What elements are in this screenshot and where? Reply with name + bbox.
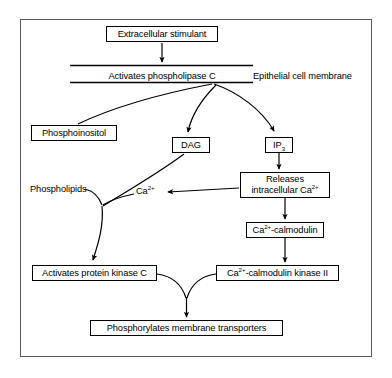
node-extracellular-stimulant: Extracellular stimulant [106, 26, 218, 42]
node-activates-protein-kinase-c: Activates protein kinase C [32, 265, 157, 281]
node-phosphorylates-membrane-transporters: Phosphorylates membrane transporters [90, 320, 283, 336]
node-label: Phosphorylates membrane transporters [107, 323, 267, 333]
edge-pkc-to-merge [157, 274, 186, 298]
releases-line-2: intracellular Ca [251, 185, 311, 195]
node-label: Extracellular stimulant [118, 29, 207, 39]
membrane-caption: Epithelial cell membrane [253, 71, 352, 81]
node-label: DAG [181, 140, 201, 150]
edge-releases-to-calcium [168, 188, 239, 192]
phospholipids-text: Phospholipids [30, 184, 87, 194]
edge-junction-to-pkc [93, 206, 102, 260]
node-releases-intracellular-calcium: Releasesintracellular Ca2+ [240, 172, 330, 198]
node-label: Phosphoinositol [42, 128, 106, 138]
node-label: Ca2+-calmodulin [253, 225, 318, 235]
node-label: Ca2+-calmodulin kinase II [227, 268, 328, 278]
node-calcium-calmodulin-kinase-ii: Ca2+-calmodulin kinase II [216, 265, 339, 281]
ip3-subscript: 3 [282, 145, 285, 152]
node-calcium-calmodulin: Ca2+-calmodulin [246, 222, 324, 238]
membrane-caption-text: Epithelial cell membrane [253, 71, 352, 81]
calmodulin-base: Ca [253, 225, 265, 235]
edge-phospholipids-leader [85, 189, 102, 205]
label-phospholipids: Phospholipids [30, 184, 87, 194]
calcium-base: Ca [136, 186, 148, 196]
edge-dag-to-junction [103, 154, 184, 206]
node-dag: DAG [172, 137, 210, 153]
calmodulin-suffix: -calmodulin [271, 225, 317, 235]
edge-membrane-to-ip3 [214, 84, 274, 131]
membrane-inner-label: Activates phospholipase C [108, 70, 216, 83]
node-label: Activates protein kinase C [42, 268, 147, 278]
membrane-label-text: Activates phospholipase C [108, 71, 215, 81]
releases-superscript: 2+ [312, 183, 319, 190]
calcium-superscript: 2+ [148, 184, 155, 191]
label-calcium-ion: Ca2+ [136, 186, 154, 196]
camk2-base: Ca [227, 268, 239, 278]
node-label: IP3 [273, 140, 285, 150]
releases-line-1: Releases [266, 174, 304, 184]
node-ip3: IP3 [265, 137, 293, 153]
ip3-base: IP [273, 140, 282, 150]
camk2-suffix: -calmodulin kinase II [245, 268, 328, 278]
node-phosphoinositol: Phosphoinositol [31, 125, 117, 141]
pathway-diagram: Extracellular stimulant Activates phosph… [0, 0, 392, 378]
edge-camk2-to-merge [187, 274, 216, 298]
node-label: Releasesintracellular Ca2+ [251, 174, 318, 195]
edge-membrane-to-dag [188, 85, 216, 132]
calmodulin-superscript: 2+ [264, 223, 271, 230]
